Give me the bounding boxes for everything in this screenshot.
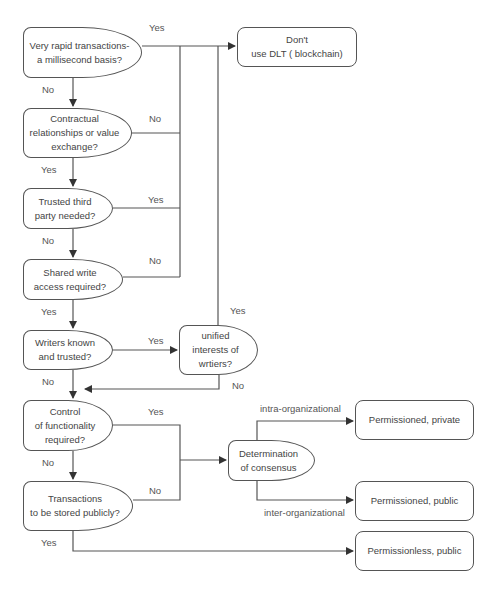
outcome-text: Don't use DLT ( blockchain): [251, 33, 343, 61]
decision-text: Writers known and trusted?: [35, 336, 95, 364]
edge-label: No: [42, 457, 54, 468]
decision-writers-known: Writers known and trusted?: [23, 330, 113, 370]
edge-label: Yes: [41, 164, 57, 175]
outcome-dont-use-dlt: Don't use DLT ( blockchain): [237, 27, 357, 67]
decision-text: Determination of consensus: [239, 447, 298, 475]
outcome-text: Permissioned, public: [371, 494, 459, 508]
decision-shared-write: Shared write access required?: [23, 259, 123, 300]
edge-label: Yes: [230, 305, 246, 316]
decision-trusted-third-party: Trusted third party needed?: [23, 188, 113, 229]
edge-label: No: [42, 376, 54, 387]
decision-text: unified interests of wrtiers?: [192, 329, 238, 371]
outcome-permissionless-public: Permissionless, public: [355, 531, 474, 571]
edge-label: Yes: [148, 194, 164, 205]
decision-stored-publicly: Transactions to be stored publicly?: [23, 481, 133, 531]
edge-label: No: [42, 84, 54, 95]
decision-text: Shared write access required?: [34, 266, 106, 294]
decision-text: Control of functionality required?: [35, 405, 96, 447]
decision-text: Very rapid transactions- a millisecond b…: [30, 39, 130, 67]
outcome-text: Permissionless, public: [368, 544, 462, 558]
decision-contractual: Contractual relationships or value excha…: [23, 108, 132, 158]
edge-label: Yes: [148, 406, 164, 417]
decision-text: Contractual relationships or value excha…: [30, 112, 120, 154]
edge-label: No: [42, 235, 54, 246]
edge-label: No: [149, 255, 161, 266]
decision-control-functionality: Control of functionality required?: [23, 400, 113, 451]
edge-label: No: [149, 485, 161, 496]
decision-rapid-transactions: Very rapid transactions- a millisecond b…: [23, 27, 142, 78]
outcome-text: Permissioned, private: [369, 413, 460, 427]
edge-label: Yes: [41, 537, 57, 548]
edge-label: No: [232, 380, 244, 391]
decision-unified-interests: unified interests of wrtiers?: [179, 325, 258, 375]
edge-label-intra: intra-organizational: [260, 403, 341, 414]
decision-text: Trusted third party needed?: [35, 195, 96, 223]
edge-label: Yes: [41, 306, 57, 317]
outcome-permissioned-public: Permissioned, public: [355, 481, 474, 521]
edge-label: Yes: [149, 22, 165, 33]
edge-label: Yes: [148, 335, 164, 346]
outcome-permissioned-private: Permissioned, private: [355, 400, 474, 440]
edge-label: No: [149, 113, 161, 124]
decision-consensus: Determination of consensus: [228, 440, 315, 481]
edge-label-inter: inter-organizational: [264, 507, 345, 518]
decision-text: Transactions to be stored publicly?: [30, 492, 120, 520]
